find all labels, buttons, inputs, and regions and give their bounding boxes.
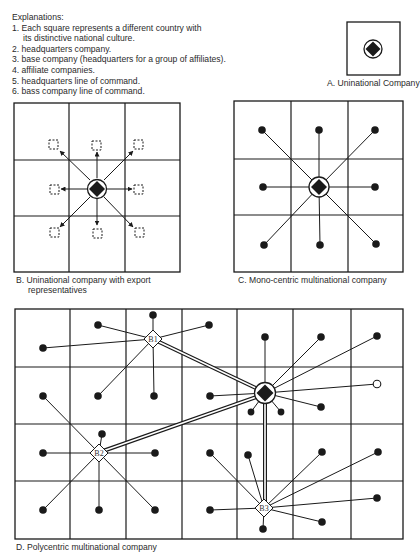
panel-a-uninational bbox=[347, 22, 400, 75]
panel-b-caption-line1: B. Uninational company with export bbox=[16, 275, 151, 286]
headquarters-icon bbox=[309, 177, 329, 197]
panel-a-caption: A. Uninational Company bbox=[327, 78, 420, 89]
panel-d-polycentric bbox=[15, 309, 403, 539]
base-label-b1: B1 bbox=[148, 335, 157, 344]
panel-c-caption: C. Mono-centric multinational company bbox=[238, 275, 387, 286]
base-label-b3: B3 bbox=[259, 504, 268, 513]
hollow-affiliate-icon bbox=[373, 380, 381, 388]
panel-b-caption-line2: representatives bbox=[28, 285, 87, 296]
panel-d-caption: D. Polycentric multinational company bbox=[16, 542, 157, 553]
panel-c-monocentric bbox=[234, 101, 403, 272]
base-label-b2: B2 bbox=[94, 449, 103, 458]
headquarters-icon bbox=[364, 40, 382, 58]
headquarters-icon bbox=[255, 383, 276, 404]
headquarters-icon bbox=[88, 180, 107, 199]
panel-b-export-representatives bbox=[14, 103, 180, 272]
